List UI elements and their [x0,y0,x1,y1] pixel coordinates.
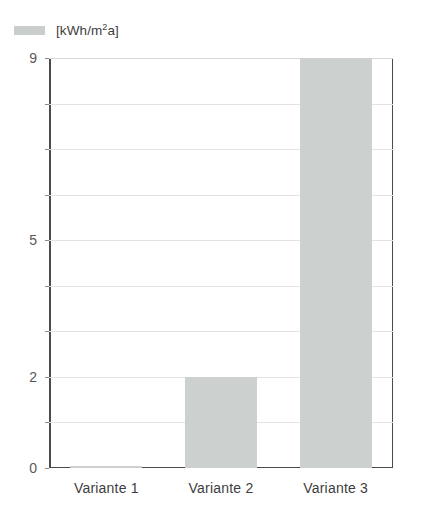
x-axis-category-label: Variante 2 [189,480,254,496]
y-axis-tick-labels: 9520 [0,58,49,468]
legend-color-swatch [14,26,45,35]
legend-label-prefix: [kWh/m [56,23,102,38]
x-axis-category-label: Variante 1 [74,480,139,496]
y-axis-tick-label: 9 [7,50,37,66]
legend-label: [kWh/m2a] [56,23,119,38]
bar [70,466,142,468]
plot-right-border [392,58,394,468]
x-axis-category-labels: Variante 1Variante 2Variante 3 [49,480,393,504]
plot-area [49,58,393,468]
y-axis-tick-mark [45,468,49,469]
bar [300,58,372,468]
y-axis-tick-label: 5 [7,232,37,248]
y-axis-line [49,58,51,468]
chart-legend: [kWh/m2a] [14,22,119,38]
y-axis-tick-label: 0 [7,460,37,476]
bar [185,377,257,468]
bar-chart: [kWh/m2a] 9520 Variante 1Variante 2Varia… [0,0,424,517]
x-axis-category-label: Variante 3 [303,480,368,496]
legend-label-suffix: a] [107,23,118,38]
y-axis-tick-label: 2 [7,369,37,385]
